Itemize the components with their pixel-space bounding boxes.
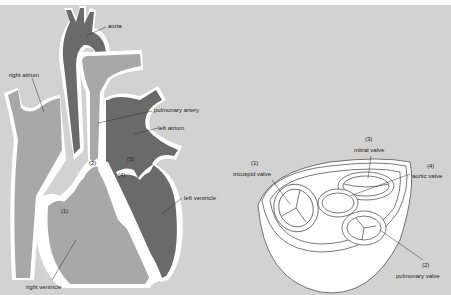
label-pulmonary-number: (2) — [422, 262, 429, 268]
label-pulmonary-valve: pulmonary valve — [396, 273, 440, 279]
label-right-atrium: right atrium — [9, 72, 39, 78]
label-valve-3: (3) — [127, 156, 134, 162]
label-tricuspid-number: (1) — [251, 160, 258, 166]
label-mitral-number: (3) — [365, 136, 372, 142]
label-aorta: aorta — [108, 23, 122, 29]
label-aortic-number: (4) — [427, 163, 434, 169]
top-band — [0, 0, 451, 5]
heart-diagram: aorta right atrium pulmonary artery left… — [0, 0, 451, 295]
label-valve-2: (2) — [89, 160, 96, 166]
label-tricuspid-valve: tricuspid valve — [233, 171, 272, 177]
label-mitral-valve: mitral valve — [354, 147, 385, 153]
label-left-ventricle: left ventricle — [184, 195, 217, 201]
label-pulmonary-artery: pulmonary artery — [154, 107, 199, 113]
label-aortic-valve: aortic valve — [412, 173, 443, 179]
label-left-atrium: left atrium — [158, 125, 184, 131]
label-valve-1: (1) — [61, 208, 68, 214]
label-right-ventricle: right ventricle — [26, 284, 62, 290]
label-valve-4: (4) — [118, 172, 125, 178]
